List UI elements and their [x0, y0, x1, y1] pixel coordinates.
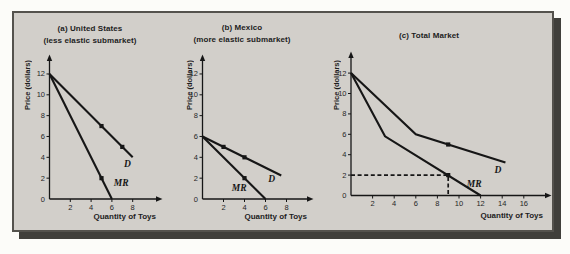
marginal-revenue-curve-label: MR	[113, 178, 129, 188]
dashed-guide-line	[351, 175, 448, 195]
data-point-marker	[99, 176, 103, 180]
x-tick-label: 6	[414, 199, 418, 208]
y-tick-label: 6	[342, 130, 346, 139]
panel-a-x-axis-label: Quantity of Toys	[36, 212, 156, 221]
demand-curve	[203, 136, 282, 175]
data-point-marker	[242, 155, 246, 159]
data-point-marker	[120, 145, 124, 149]
x-tick-label: 6	[110, 203, 114, 212]
y-tick-label: 12	[37, 69, 45, 78]
demand-curve-label: D	[493, 165, 501, 175]
panel-b-y-axis-label: Price (dollars)	[185, 48, 196, 122]
y-tick-label: 10	[37, 90, 45, 99]
panel-c-title-line1: (c) Total Market	[349, 30, 509, 42]
x-tick-label: 2	[371, 199, 375, 208]
panel-a-title: (a) United States (less elastic submarke…	[10, 23, 170, 47]
panel-b-title-line1: (b) Mexico	[162, 22, 322, 34]
x-tick-label: 4	[392, 199, 396, 208]
y-tick-label: 2	[41, 174, 45, 183]
data-point-marker	[446, 142, 450, 146]
panel-b-x-axis-label: Quantity of Toys	[187, 212, 307, 221]
x-tick-label: 2	[221, 203, 225, 212]
y-axis-arrow-icon	[348, 52, 353, 59]
panel-a-title-line2: (less elastic submarket)	[10, 35, 170, 47]
x-axis-arrow-icon	[307, 196, 314, 201]
x-axis-arrow-icon	[545, 193, 552, 198]
y-tick-label: 4	[342, 150, 346, 159]
x-tick-label: 4	[242, 203, 246, 212]
x-tick-label: 6	[263, 203, 267, 212]
y-axis-arrow-icon	[47, 55, 52, 62]
x-tick-label: 8	[435, 199, 439, 208]
data-point-marker	[221, 145, 225, 149]
y-tick-label: 4	[41, 153, 45, 162]
panel-b-title-line2: (more elastic submarket)	[162, 34, 322, 46]
y-tick-label: 0	[342, 191, 346, 200]
x-tick-label: 8	[284, 203, 288, 212]
marginal-revenue-curve-label: MR	[231, 183, 247, 193]
y-tick-label: 2	[342, 171, 346, 180]
x-tick-label: 16	[520, 199, 528, 208]
x-tick-label: 14	[498, 199, 506, 208]
data-point-marker	[446, 173, 450, 177]
x-tick-label: 12	[476, 199, 484, 208]
y-tick-label: 4	[194, 153, 198, 162]
y-tick-label: 6	[194, 132, 198, 141]
panel-c-x-axis-label: Quantity of Toys	[423, 211, 543, 220]
y-tick-label: 2	[194, 174, 198, 183]
y-tick-label: 0	[194, 195, 198, 204]
x-axis-arrow-icon	[156, 196, 163, 201]
x-tick-label: 8	[131, 203, 135, 212]
y-tick-label: 0	[41, 195, 45, 204]
panel-a-title-line1: (a) United States	[10, 23, 170, 35]
data-point-marker	[242, 176, 246, 180]
panel-c-title: (c) Total Market	[349, 30, 509, 42]
panel-c-y-axis-label: Price (dollars)	[332, 48, 343, 122]
y-tick-label: 8	[41, 111, 45, 120]
marginal-revenue-curve-label: MR	[466, 179, 482, 189]
x-tick-label: 2	[68, 203, 72, 212]
data-point-marker	[99, 124, 103, 128]
demand-curve-label: D	[267, 174, 275, 184]
y-axis-arrow-icon	[200, 55, 205, 62]
x-tick-label: 10	[455, 199, 463, 208]
x-tick-label: 4	[89, 203, 93, 212]
panel-a-y-axis-label: Price (dollars)	[23, 48, 34, 122]
demand-curve-label: D	[123, 159, 131, 169]
panel-b-title: (b) Mexico (more elastic submarket)	[162, 22, 322, 46]
y-tick-label: 6	[41, 132, 45, 141]
